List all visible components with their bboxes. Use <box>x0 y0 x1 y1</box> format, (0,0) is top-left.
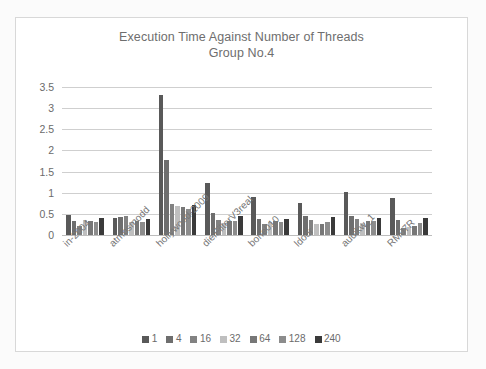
chart-title-line-1: Execution Time Against Number of Threads <box>16 29 467 45</box>
x-axis-category-labels: in-2004atmosmoddhollywood-2009dielFilter… <box>62 235 432 315</box>
y-tick-label: 0.5 <box>39 208 54 220</box>
legend-item[interactable]: 240 <box>315 334 341 344</box>
legend-swatch-icon <box>142 336 149 343</box>
bar-group <box>62 87 108 235</box>
bar <box>320 224 324 235</box>
bar <box>238 216 242 235</box>
legend-swatch-icon <box>166 336 173 343</box>
bar <box>94 222 98 235</box>
bar-group <box>340 87 386 235</box>
legend-label: 128 <box>289 334 306 344</box>
chart-frame: Execution Time Against Number of Threads… <box>15 17 468 352</box>
y-axis-tick-labels: 00.511.522.533.5 <box>16 87 58 235</box>
bar-group <box>386 87 432 235</box>
bar <box>344 192 348 235</box>
bar <box>205 183 209 235</box>
bar <box>164 160 168 235</box>
legend-item[interactable]: 32 <box>220 334 241 344</box>
chart-title: Execution Time Against Number of Threads… <box>16 29 467 61</box>
bars-layer <box>62 87 432 235</box>
legend-item[interactable]: 16 <box>190 334 211 344</box>
bar <box>279 222 283 235</box>
bar <box>233 221 237 235</box>
bar <box>284 219 288 235</box>
y-tick-label: 3.5 <box>39 81 54 93</box>
legend-label: 16 <box>200 334 211 344</box>
legend-swatch-icon <box>315 336 322 343</box>
bar <box>99 218 103 235</box>
y-tick-label: 1 <box>48 187 54 199</box>
legend-label: 240 <box>324 334 341 344</box>
chart-legend: 14163264128240 <box>16 334 467 344</box>
bar <box>331 217 335 235</box>
bar <box>390 198 394 235</box>
bar <box>423 218 427 235</box>
bar <box>159 95 163 235</box>
legend-swatch-icon <box>190 336 197 343</box>
bar-group <box>293 87 339 235</box>
y-tick-label: 2 <box>48 144 54 156</box>
chart-title-line-2: Group No.4 <box>16 45 467 61</box>
legend-swatch-icon <box>279 336 286 343</box>
legend-item[interactable]: 128 <box>279 334 305 344</box>
bar <box>418 223 422 235</box>
y-tick-label: 2.5 <box>39 123 54 135</box>
bar-group <box>247 87 293 235</box>
legend-swatch-icon <box>220 336 227 343</box>
y-tick-label: 0 <box>48 229 54 241</box>
y-tick-label: 3 <box>48 102 54 114</box>
bar <box>146 219 150 235</box>
y-tick-label: 1.5 <box>39 166 54 178</box>
legend-swatch-icon <box>250 336 257 343</box>
bar <box>325 222 329 235</box>
legend-label: 1 <box>152 334 158 344</box>
bar <box>140 222 144 235</box>
bar <box>377 218 381 235</box>
legend-item[interactable]: 64 <box>250 334 271 344</box>
legend-item[interactable]: 1 <box>142 334 157 344</box>
legend-item[interactable]: 4 <box>166 334 181 344</box>
legend-label: 4 <box>176 334 182 344</box>
legend-label: 64 <box>259 334 270 344</box>
plot-area <box>62 87 432 235</box>
legend-label: 32 <box>230 334 241 344</box>
